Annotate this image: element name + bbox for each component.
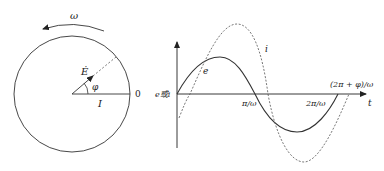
phasor-waveform-diagram: ω 0 I Ė φ e或i t π/ω 2π/ω (2π + φ)/ω xyxy=(0,0,384,171)
tick-2pi-label: 2π/ω xyxy=(305,99,326,108)
emf-phasor-label: Ė xyxy=(80,66,89,77)
y-axis-label: e或i xyxy=(155,90,171,99)
t-axis-label: t xyxy=(368,98,372,108)
angle-arc xyxy=(84,83,88,94)
rotation-arrow-icon xyxy=(43,24,104,31)
phasor-diagram: ω 0 I Ė φ xyxy=(14,10,141,152)
omega-label: ω xyxy=(70,10,78,21)
waveform-graph: e或i t π/ω 2π/ω (2π + φ)/ω e i xyxy=(155,24,374,162)
origin-label: 0 xyxy=(135,89,141,99)
tick-pi-label: π/ω xyxy=(241,99,257,108)
tick-2pi-phi-label: (2π + φ)/ω xyxy=(330,80,374,89)
emf-phasor-extension xyxy=(93,57,116,76)
current-phasor-label: I xyxy=(97,98,103,109)
emf-phasor-line xyxy=(72,76,93,94)
angle-label: φ xyxy=(92,82,99,92)
current-curve xyxy=(179,24,349,162)
current-curve-label: i xyxy=(265,44,268,54)
emf-curve-label: e xyxy=(203,66,208,76)
